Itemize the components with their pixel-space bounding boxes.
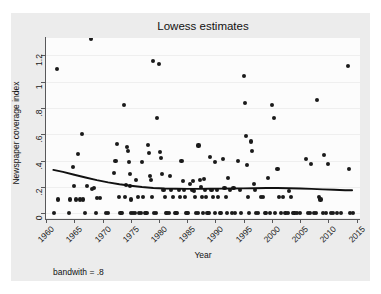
x-tick — [159, 219, 160, 223]
chart-title: Lowess estimates — [46, 20, 360, 32]
y-tick-label: .6 — [34, 136, 44, 143]
y-axis-line — [45, 37, 46, 219]
y-tick-label: 0 — [34, 216, 44, 221]
y-tick-label: 1 — [34, 84, 44, 89]
x-tick — [74, 219, 75, 223]
plot-area — [46, 38, 360, 218]
y-tick-label: 1.2 — [34, 54, 44, 66]
x-tick — [300, 219, 301, 223]
x-tick — [46, 219, 47, 223]
x-axis-line — [45, 219, 360, 220]
y-tick-label: .2 — [34, 188, 44, 195]
x-tick — [103, 219, 104, 223]
x-tick — [357, 219, 358, 223]
bandwidth-note: bandwith = .8 — [53, 267, 104, 277]
x-tick — [328, 219, 329, 223]
x-tick — [131, 219, 132, 223]
y-tick-label: .8 — [34, 109, 44, 116]
x-tick — [244, 219, 245, 223]
x-axis-title: Year — [46, 250, 360, 260]
x-tick — [187, 219, 188, 223]
y-tick — [41, 82, 45, 83]
y-tick — [41, 213, 45, 214]
x-tick — [215, 219, 216, 223]
y-tick — [41, 161, 45, 162]
y-axis-title: Newspaper coverage index — [11, 43, 21, 223]
lowess-curve — [46, 38, 360, 218]
y-tick-label: .4 — [34, 162, 44, 169]
x-tick — [272, 219, 273, 223]
chart-screenshot: Lowess estimates 0.2.4.6.811.2 196019651… — [0, 0, 381, 294]
